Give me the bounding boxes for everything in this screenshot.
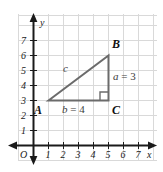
y-tick-label-4: 4	[21, 80, 26, 91]
vertex-label-b: B	[111, 37, 120, 51]
vertex-label-a: A	[33, 103, 42, 117]
y-tick-label-5: 5	[21, 65, 26, 76]
vertex-label-c: C	[112, 103, 121, 117]
side-label-a-eq: = 3	[119, 70, 137, 82]
graph-canvas: y x O 1 2 3 4 5 6 7 1 2 3 4 5 6 7 A B C …	[0, 0, 163, 172]
side-label-c-text: c	[63, 62, 68, 74]
y-tick-label-1: 1	[21, 125, 26, 136]
side-label-a: a = 3	[113, 70, 136, 82]
side-label-b: b = 4	[62, 103, 85, 115]
side-label-c: c	[63, 62, 68, 74]
coordinate-plane-figure: y x O 1 2 3 4 5 6 7 1 2 3 4 5 6 7 A B C …	[0, 0, 163, 172]
side-label-b-eq: = 4	[68, 103, 86, 115]
y-tick-label-6: 6	[21, 50, 26, 61]
x-tick-label-4: 4	[91, 149, 96, 160]
y-tick-label-3: 3	[20, 95, 26, 106]
x-tick-label-5: 5	[106, 149, 111, 160]
y-tick-label-2: 2	[21, 110, 26, 121]
origin-label: O	[20, 149, 27, 160]
x-tick-label-2: 2	[61, 149, 66, 160]
x-tick-label-3: 3	[75, 149, 81, 160]
x-tick-label-1: 1	[46, 149, 51, 160]
x-tick-label-6: 6	[121, 149, 126, 160]
y-tick-labels: 1 2 3 4 5 6 7	[20, 35, 27, 136]
y-axis-label: y	[39, 17, 45, 28]
x-axis-label: x	[146, 149, 152, 160]
